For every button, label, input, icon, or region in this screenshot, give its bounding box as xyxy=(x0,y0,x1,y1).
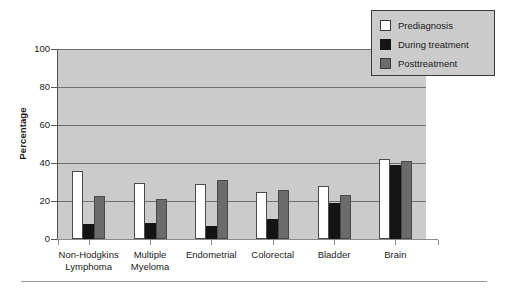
bar-chart-figure: Percentage 020406080100 Non-HodgkinsLymp… xyxy=(0,0,507,291)
gridline xyxy=(58,163,426,164)
x-axis-tick-label-line: Brain xyxy=(335,249,455,261)
bar xyxy=(145,223,156,239)
x-axis-tick-mark xyxy=(211,240,212,245)
x-axis-endcap xyxy=(438,240,439,245)
bar xyxy=(195,184,206,239)
bar xyxy=(217,180,228,239)
x-axis-tick-mark xyxy=(89,240,90,245)
bar xyxy=(206,226,217,239)
y-axis-tick-label: 80 xyxy=(20,82,50,92)
bar xyxy=(72,171,83,239)
y-axis-tick-label: 40 xyxy=(20,158,50,168)
y-axis-tick-labels: 020406080100 xyxy=(18,0,50,291)
bar xyxy=(256,192,267,240)
legend-swatch-prediagnosis xyxy=(380,20,391,31)
x-axis-line xyxy=(57,239,438,240)
legend-item: Posttreatment xyxy=(380,54,494,72)
bar xyxy=(401,161,412,239)
y-axis-tick-label: 20 xyxy=(20,196,50,206)
legend-label-posttreatment: Posttreatment xyxy=(398,58,457,69)
bar xyxy=(379,159,390,239)
x-axis-endcap xyxy=(58,240,59,245)
x-axis-tick-label-line: Myeloma xyxy=(90,261,210,273)
legend-swatch-posttreatment xyxy=(380,58,391,69)
bar xyxy=(278,190,289,239)
legend-swatch-during-treatment xyxy=(380,39,391,50)
gridline xyxy=(58,201,426,202)
y-axis-tick-label: 100 xyxy=(20,44,50,54)
bar xyxy=(83,224,94,239)
plot-area xyxy=(58,49,426,239)
bar xyxy=(134,183,145,239)
bar xyxy=(390,165,401,239)
x-axis-tick-mark xyxy=(395,240,396,245)
bar xyxy=(156,199,167,239)
x-axis-tick-mark xyxy=(150,240,151,245)
bar xyxy=(94,196,105,239)
legend-item: Prediagnosis xyxy=(380,16,494,34)
bar xyxy=(267,219,278,239)
legend-label-prediagnosis: Prediagnosis xyxy=(398,20,453,31)
y-axis-tick-label: 60 xyxy=(20,120,50,130)
x-axis-tick-mark xyxy=(273,240,274,245)
bar xyxy=(329,203,340,239)
legend-label-during-treatment: During treatment xyxy=(398,39,469,50)
gridline xyxy=(58,125,426,126)
legend-item: During treatment xyxy=(380,35,494,53)
x-axis-tick-mark xyxy=(334,240,335,245)
bar xyxy=(318,186,329,239)
chart-legend: Prediagnosis During treatment Posttreatm… xyxy=(371,10,495,76)
footer-rule xyxy=(21,281,487,282)
x-axis-tick-label: Brain xyxy=(335,249,455,261)
bar xyxy=(340,195,351,239)
y-axis-tick-label: 0 xyxy=(20,234,50,244)
gridline xyxy=(58,87,426,88)
